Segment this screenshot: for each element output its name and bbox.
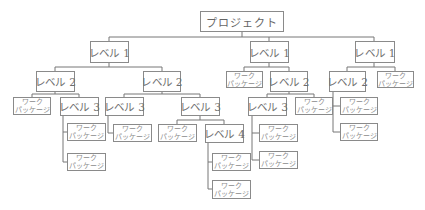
work-package-box: ワークパッケージ bbox=[226, 71, 263, 88]
level-box-l2c: レベル 2 bbox=[270, 71, 308, 92]
work-package-label-line2: パッケージ bbox=[261, 133, 296, 141]
level-box-l1a: レベル 1 bbox=[90, 41, 129, 63]
work-package-label-line1: ワーク bbox=[76, 124, 97, 132]
level-box-l2d: レベル 2 bbox=[329, 71, 366, 92]
work-package-label-line2: パッケージ bbox=[261, 160, 296, 168]
work-package-label-line1: ワーク bbox=[76, 154, 97, 162]
work-package-box: ワークパッケージ bbox=[212, 180, 251, 199]
work-package-label-line1: ワーク bbox=[234, 72, 255, 80]
work-package-label-line2: パッケージ bbox=[342, 132, 377, 140]
work-package-label-line2: パッケージ bbox=[115, 133, 150, 141]
level-box-l3d: レベル 3 bbox=[248, 97, 287, 116]
work-package-box: ワークパッケージ bbox=[259, 151, 298, 169]
work-package-box: ワークパッケージ bbox=[13, 97, 51, 115]
work-package-label-line2: パッケージ bbox=[69, 132, 104, 140]
work-package-label-line1: ワーク bbox=[167, 125, 188, 133]
work-package-box: ワークパッケージ bbox=[67, 153, 106, 171]
work-package-label-line1: ワーク bbox=[268, 125, 289, 133]
level-box-l2b: レベル 2 bbox=[143, 71, 181, 92]
level-box-l3c: レベル 3 bbox=[181, 97, 220, 116]
work-package-label-line1: ワーク bbox=[221, 154, 242, 162]
work-package-label-line1: ワーク bbox=[304, 98, 325, 106]
work-package-box: ワークパッケージ bbox=[158, 124, 197, 142]
level-box-l3b: レベル 3 bbox=[105, 97, 144, 116]
work-package-box: ワークパッケージ bbox=[67, 123, 106, 141]
work-package-box: ワークパッケージ bbox=[340, 123, 378, 141]
project-box: プロジェクト bbox=[200, 11, 284, 32]
work-package-label-line1: ワーク bbox=[22, 98, 43, 106]
work-package-label-line1: ワーク bbox=[349, 124, 370, 132]
level-box-l1b: レベル 1 bbox=[250, 41, 289, 63]
work-package-label-line2: パッケージ bbox=[342, 106, 377, 114]
work-package-label-line2: パッケージ bbox=[15, 106, 50, 114]
work-package-label-line2: パッケージ bbox=[378, 80, 413, 88]
level-box-l4a: レベル 4 bbox=[205, 124, 244, 143]
work-package-label-line2: パッケージ bbox=[69, 162, 104, 170]
work-package-label-line2: パッケージ bbox=[160, 133, 195, 141]
level-box-l1c: レベル 1 bbox=[355, 41, 395, 63]
work-package-box: ワークパッケージ bbox=[212, 153, 251, 171]
work-package-label-line1: ワーク bbox=[349, 98, 370, 106]
level-box-l2a: レベル 2 bbox=[36, 71, 75, 92]
level-box-l3a: レベル 3 bbox=[60, 97, 99, 116]
work-package-box: ワークパッケージ bbox=[295, 97, 333, 115]
work-package-label-line1: ワーク bbox=[268, 152, 289, 160]
work-package-box: ワークパッケージ bbox=[340, 97, 378, 115]
work-package-box: ワークパッケージ bbox=[113, 124, 152, 142]
work-package-box: ワークパッケージ bbox=[259, 124, 298, 142]
work-package-label-line2: パッケージ bbox=[214, 190, 249, 198]
work-package-label-line2: パッケージ bbox=[297, 106, 332, 114]
work-package-label-line2: パッケージ bbox=[227, 80, 262, 88]
work-package-label-line1: ワーク bbox=[221, 182, 242, 190]
wbs-diagram: プロジェクトレベル 1レベル 1レベル 1レベル 2レベル 2ワークパッケージレ… bbox=[0, 0, 425, 210]
connector-line bbox=[252, 116, 259, 160]
work-package-label-line2: パッケージ bbox=[214, 162, 249, 170]
work-package-label-line1: ワーク bbox=[122, 125, 143, 133]
connector-line bbox=[333, 92, 340, 132]
work-package-label-line1: ワーク bbox=[385, 72, 406, 80]
work-package-box: ワークパッケージ bbox=[377, 71, 414, 88]
